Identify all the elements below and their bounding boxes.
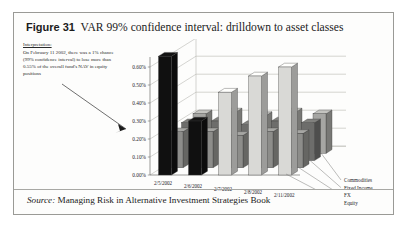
y-axis-tick-label: 0.30% bbox=[120, 118, 146, 124]
bar-chart-plot: 0.60%0.50%0.40%0.30%0.20%0.10%0.00% 2/5/… bbox=[114, 39, 354, 189]
y-axis-tick-label: 0.50% bbox=[120, 82, 146, 88]
y-axis-tick-label: 0.60% bbox=[120, 64, 146, 70]
y-axis-tick-label: 0.40% bbox=[120, 100, 146, 106]
bar bbox=[219, 88, 238, 175]
source-divider bbox=[14, 189, 393, 190]
chart-area: Interpretation: On February 11 2002, the… bbox=[14, 39, 393, 189]
y-axis-tick-label: 0.00% bbox=[120, 172, 146, 178]
x-axis-tick-label: 2/5/2002 bbox=[154, 180, 172, 186]
legend-item-equity: Equity bbox=[344, 200, 358, 206]
interpretation-body: On February 11 2002, there was a 1% chan… bbox=[23, 49, 115, 78]
x-axis-tick-label: 2/11/2002 bbox=[274, 192, 294, 198]
bar bbox=[159, 52, 178, 175]
y-axis-tick-label: 0.20% bbox=[120, 136, 146, 142]
interpretation-heading: Interpretation: bbox=[23, 41, 115, 48]
bar bbox=[189, 117, 208, 175]
figure-container: Figure 31 VAR 99% confidence interval: d… bbox=[13, 12, 394, 215]
figure-title: Figure 31 VAR 99% confidence interval: d… bbox=[26, 21, 386, 34]
source-caption: Source: Managing Risk in Alternative Inv… bbox=[27, 195, 270, 205]
bar bbox=[249, 72, 268, 175]
bar bbox=[279, 63, 298, 175]
source-text: Managing Risk in Alternative Investment … bbox=[58, 195, 271, 205]
source-label: Source: bbox=[27, 195, 55, 205]
interpretation-annotation: Interpretation: On February 11 2002, the… bbox=[23, 41, 115, 78]
bars bbox=[159, 52, 333, 175]
figure-number: Figure 31 bbox=[26, 21, 75, 33]
figure-title-text: VAR 99% confidence interval: drilldown t… bbox=[81, 21, 344, 34]
chart-svg bbox=[114, 39, 354, 189]
legend-item-commodities: Commodities bbox=[344, 177, 372, 183]
legend-item-fx: FX bbox=[344, 192, 351, 198]
y-axis-tick-label: 0.10% bbox=[120, 154, 146, 160]
